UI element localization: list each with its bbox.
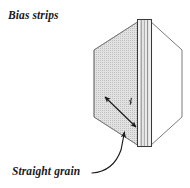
plain-panel-outline	[150, 21, 182, 146]
bias-strips-label: Bias strips	[8, 9, 59, 21]
fold-spine	[138, 20, 152, 147]
grain-leader	[92, 132, 125, 173]
figure-canvas: Bias strips Straight grain	[0, 0, 190, 188]
bias-strips-illustration	[0, 0, 190, 188]
plain-fabric-panel	[150, 21, 182, 146]
shaded-panel-outline	[94, 21, 139, 146]
grain-leader-curve	[92, 132, 125, 173]
shaded-fabric-panel	[94, 21, 139, 146]
straight-grain-label: Straight grain	[12, 165, 80, 177]
